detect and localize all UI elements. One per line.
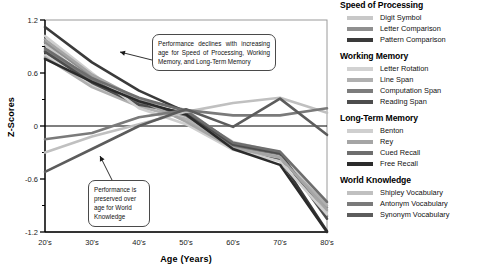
legend-item-label: Computation Span <box>380 86 441 95</box>
legend-group-heading: Speed of Processing <box>340 0 485 10</box>
legend-item-label: Synonym Vocabulary <box>380 210 449 219</box>
legend-item[interactable]: Rey <box>340 136 485 147</box>
legend-item[interactable]: Computation Span <box>340 85 485 96</box>
x-tick-label: 60's <box>226 238 240 247</box>
y-tick-label: 0 <box>34 122 38 131</box>
legend-item-label: Digit Symbol <box>380 13 421 22</box>
legend-color-swatch <box>347 89 373 93</box>
legend-group-heading: Working Memory <box>340 51 485 61</box>
legend-item-label: Letter Comparison <box>380 24 441 33</box>
legend-group: Long-Term MemoryBentonReyCued RecallFree… <box>340 113 485 169</box>
legend-item[interactable]: Pattern Comparison <box>340 34 485 45</box>
annotation-preserved: Performance is preserved over age for Wo… <box>88 180 150 227</box>
legend-group: Working MemoryLetter RotationLine SpanCo… <box>340 51 485 107</box>
x-tick-label: 40's <box>132 238 146 247</box>
legend-item[interactable]: Digit Symbol <box>340 12 485 23</box>
legend-group-heading: World Knowledge <box>340 175 485 185</box>
legend-item[interactable]: Antonym Vocabulary <box>340 198 485 209</box>
legend-color-swatch <box>347 67 373 71</box>
legend-color-swatch <box>347 27 373 31</box>
y-axis-title: Z-Scores <box>6 87 16 147</box>
legend-color-swatch <box>347 100 373 104</box>
legend-item-label: Cued Recall <box>380 148 420 157</box>
legend-item[interactable]: Letter Comparison <box>340 23 485 34</box>
legend-color-swatch <box>347 38 373 42</box>
legend-item[interactable]: Line Span <box>340 74 485 85</box>
legend-item[interactable]: Letter Rotation <box>340 63 485 74</box>
x-axis-title: Age (Years) <box>45 254 327 264</box>
legend-color-swatch <box>347 129 373 133</box>
y-tick-label: -1.2 <box>25 228 38 237</box>
figure-root: 1.20.60-0.6-1.220's30's40's50's60's70's8… <box>0 0 485 271</box>
legend-item-label: Reading Span <box>380 97 427 106</box>
legend-color-swatch <box>347 162 373 166</box>
legend-item[interactable]: Benton <box>340 125 485 136</box>
legend-item-label: Shipley Vocabulary <box>380 188 443 197</box>
x-tick-label: 50's <box>179 238 193 247</box>
legend-color-swatch <box>347 191 373 195</box>
legend-item-label: Free Recall <box>380 159 418 168</box>
legend-item[interactable]: Reading Span <box>340 96 485 107</box>
y-tick-label: -0.6 <box>25 175 38 184</box>
legend-group-heading: Long-Term Memory <box>340 113 485 123</box>
legend-group: World KnowledgeShipley VocabularyAntonym… <box>340 175 485 220</box>
legend-item-label: Rey <box>380 137 393 146</box>
legend-item[interactable]: Free Recall <box>340 158 485 169</box>
chart-panel: 1.20.60-0.6-1.220's30's40's50's60's70's8… <box>0 0 336 271</box>
legend-item[interactable]: Synonym Vocabulary <box>340 209 485 220</box>
x-tick-label: 70's <box>273 238 287 247</box>
y-tick-label: 0.6 <box>28 69 38 78</box>
legend-item[interactable]: Shipley Vocabulary <box>340 187 485 198</box>
x-tick-label: 30's <box>85 238 99 247</box>
x-tick-label: 80's <box>320 238 334 247</box>
x-tick-label: 20's <box>38 238 52 247</box>
legend-color-swatch <box>347 213 373 217</box>
y-tick-label: 1.2 <box>28 16 38 25</box>
legend-item-label: Letter Rotation <box>380 64 428 73</box>
annotation-arrowhead <box>120 51 125 56</box>
annotation-decline: Performance declines with increasing age… <box>152 34 276 71</box>
legend-item-label: Antonym Vocabulary <box>380 199 448 208</box>
legend-item-label: Benton <box>380 126 403 135</box>
legend-color-swatch <box>347 151 373 155</box>
chart-legend: Speed of ProcessingDigit SymbolLetter Co… <box>340 0 485 271</box>
legend-item-label: Line Span <box>380 75 413 84</box>
legend-item[interactable]: Cued Recall <box>340 147 485 158</box>
legend-group: Speed of ProcessingDigit SymbolLetter Co… <box>340 0 485 45</box>
legend-color-swatch <box>347 16 373 20</box>
legend-item-label: Pattern Comparison <box>380 35 446 44</box>
legend-color-swatch <box>347 78 373 82</box>
legend-color-swatch <box>347 202 373 206</box>
legend-color-swatch <box>347 140 373 144</box>
